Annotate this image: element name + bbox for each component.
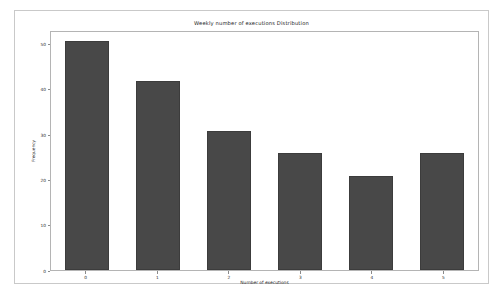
chart-title: Weekly number of executions Distribution [15, 20, 488, 27]
bar-2 [207, 131, 251, 270]
x-tick-mark [443, 271, 444, 274]
y-tick-label: 30 [41, 132, 46, 139]
x-tick-mark [85, 271, 86, 274]
bar-3 [278, 153, 322, 270]
y-tick-label: 40 [41, 86, 46, 93]
x-tick-mark [228, 271, 229, 274]
y-tick-label: 50 [41, 41, 46, 48]
x-tick-mark [157, 271, 158, 274]
x-axis: 0 1 2 3 4 5 Number of executions [50, 271, 479, 294]
bar-5 [420, 153, 464, 270]
y-tick-label: 10 [41, 222, 46, 229]
plot-axes [50, 31, 479, 271]
y-axis-label: Frequency [31, 140, 36, 162]
bar-0 [65, 41, 109, 270]
bar-series [51, 32, 478, 270]
bar-1 [136, 81, 180, 270]
y-tick-label: 0 [43, 268, 46, 275]
x-tick-mark [371, 271, 372, 274]
y-axis: Frequency 0 10 20 30 40 50 [15, 31, 50, 271]
bar-4 [349, 176, 393, 270]
x-axis-label: Number of executions [50, 280, 479, 285]
y-tick-label: 20 [41, 177, 46, 184]
x-tick-mark [300, 271, 301, 274]
figure-canvas: Weekly number of executions Distribution… [14, 10, 489, 284]
